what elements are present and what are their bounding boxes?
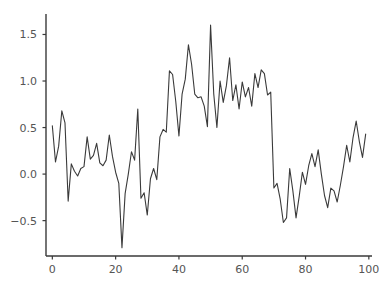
axis-spines	[46, 14, 372, 256]
y-tick-label: 1.0	[0, 75, 37, 88]
x-tick-label: 100	[358, 263, 379, 276]
data-series-line	[52, 25, 365, 247]
y-tick-label: 1.5	[0, 28, 37, 41]
y-tick-label: 0.0	[0, 168, 37, 181]
x-tick-label: 20	[109, 263, 123, 276]
figure-canvas: −0.50.00.51.01.5 020406080100	[0, 0, 384, 285]
y-tick-label: −0.5	[0, 214, 37, 227]
x-tick-label: 40	[172, 263, 186, 276]
x-tick-label: 80	[299, 263, 313, 276]
x-tick-label: 60	[235, 263, 249, 276]
y-tick-label: 0.5	[0, 121, 37, 134]
line-chart-plot	[0, 0, 384, 285]
x-tick-label: 0	[49, 263, 56, 276]
